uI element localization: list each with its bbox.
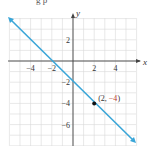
y-tick-label: −2 (61, 78, 70, 87)
y-tick-label: −6 (61, 121, 70, 130)
y-axis-label: y (75, 8, 80, 18)
coordinate-plane: xy −4−2242−2−4−6 (2, −4) (0, 0, 153, 146)
x-axis-arrow-icon (136, 59, 141, 63)
line-y-equals-neg-x-minus-2 (11, 20, 133, 140)
x-tick-label: 2 (92, 64, 96, 73)
y-axis-arrow-icon (71, 13, 75, 18)
point-label: (2, −4) (98, 94, 120, 103)
x-tick-label: −2 (48, 64, 57, 73)
data-line (8, 17, 136, 143)
y-tick-label: 2 (66, 36, 70, 45)
x-tick-label: 4 (113, 64, 117, 73)
y-tick-label: −4 (61, 99, 70, 108)
tick-labels: −4−2242−2−4−6 (26, 36, 117, 130)
point-marker (92, 101, 96, 105)
x-axis-label: x (142, 57, 147, 67)
x-tick-label: −4 (26, 64, 35, 73)
